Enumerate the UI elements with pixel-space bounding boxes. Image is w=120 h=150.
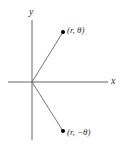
polar-diagram <box>0 0 120 150</box>
y-axis-label: y <box>29 7 33 17</box>
point-r-neg-theta-label: (r, −θ) <box>67 128 91 137</box>
ray-to-r-theta <box>32 32 63 82</box>
x-axis-label: x <box>111 76 115 86</box>
point-r-theta-label: (r, θ) <box>67 26 84 35</box>
point-r-theta-dot <box>61 30 65 34</box>
ray-to-r-neg-theta <box>32 82 63 131</box>
point-r-neg-theta-dot <box>61 129 65 133</box>
